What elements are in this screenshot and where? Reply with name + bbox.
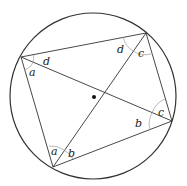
diagonal-bd: [53, 33, 146, 167]
angle-label-b: b: [135, 117, 142, 130]
cyclic-quadrilateral-diagram: a d d c c b a b: [0, 0, 187, 186]
angle-label-d: d: [117, 43, 124, 56]
angle-label-a: a: [51, 145, 58, 158]
angle-label-a: a: [29, 66, 36, 79]
angle-label-d: d: [43, 55, 50, 68]
quadrilateral: [21, 33, 172, 167]
center-dot: [92, 95, 96, 99]
angle-label-c: c: [138, 47, 144, 60]
angle-label-c: c: [158, 106, 164, 119]
angle-label-b: b: [68, 147, 75, 160]
angle-labels: a d d c c b a b: [29, 43, 164, 160]
